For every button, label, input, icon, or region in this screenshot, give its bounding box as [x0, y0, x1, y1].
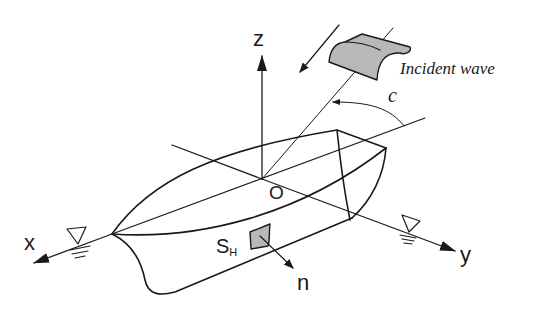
hull-coordinate-diagram: z x y O Incident wave c SH n: [0, 0, 550, 311]
normal-vector: [260, 236, 293, 268]
surface-label-sub: H: [229, 246, 237, 258]
z-axis-label: z: [253, 26, 264, 51]
origin-label: O: [269, 182, 284, 203]
x-axis: [34, 234, 112, 263]
incident-wave-label: Incident wave: [399, 59, 495, 78]
y-axis: [262, 179, 455, 251]
ship-hull: [112, 118, 425, 294]
angle-label: c: [388, 84, 397, 106]
coordinate-axes: [34, 28, 455, 263]
water-level-symbol-left: [67, 227, 90, 258]
surface-label: SH: [216, 235, 237, 258]
y-axis-back: [172, 145, 262, 179]
x-axis-label: x: [24, 230, 35, 255]
surface-label-main: S: [216, 235, 229, 257]
incident-wave-patch: [329, 34, 410, 80]
water-level-symbol-right: [400, 215, 420, 244]
normal-label: n: [297, 270, 309, 295]
hull-centerline: [112, 118, 425, 234]
hull-stern-curve-outer: [352, 148, 386, 218]
y-axis-label: y: [460, 242, 471, 267]
